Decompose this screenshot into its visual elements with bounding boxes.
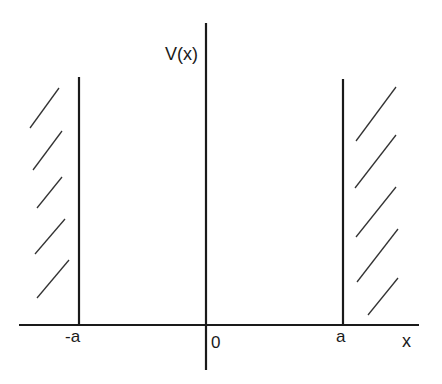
left-wall-label: -a [65, 327, 81, 346]
hatch-mark [33, 131, 62, 170]
right-wall-hatching [355, 87, 398, 315]
y-axis-label: V(x) [165, 44, 198, 64]
origin-label: 0 [211, 333, 220, 352]
left-wall-hatching [30, 88, 69, 298]
infinite-square-well-diagram: V(x) x 0 -a a [0, 0, 442, 384]
x-axis-label: x [402, 331, 411, 351]
hatch-mark [357, 229, 398, 282]
hatch-mark [37, 177, 62, 208]
hatch-mark [355, 135, 396, 188]
hatch-mark [356, 87, 396, 141]
hatch-mark [356, 187, 396, 237]
hatch-mark [37, 260, 69, 298]
right-wall-label: a [336, 327, 346, 346]
hatch-mark [30, 88, 59, 128]
hatch-mark [35, 219, 65, 254]
hatch-mark [368, 278, 398, 315]
